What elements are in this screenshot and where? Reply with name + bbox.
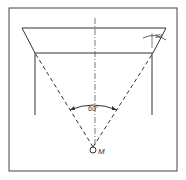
arrow-left-icon	[70, 106, 75, 110]
angle-label: 60°	[88, 105, 99, 112]
left-slant-line	[22, 28, 35, 53]
right-sight-line	[93, 53, 153, 147]
left-sight-line	[35, 53, 93, 147]
tilt-label: 30°	[155, 33, 163, 39]
right-slant-line	[153, 28, 166, 53]
diagram-canvas: 60° 30° M	[0, 0, 186, 180]
point-label: M	[98, 147, 105, 156]
viewpoint-marker	[90, 147, 96, 153]
arrow-right-icon	[112, 106, 117, 110]
